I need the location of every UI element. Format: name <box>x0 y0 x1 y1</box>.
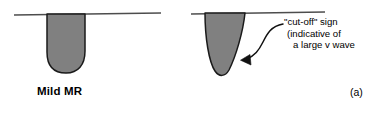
severe-mr-envelope <box>205 13 245 75</box>
figure-panel-a: Mild MR Severe MR "cut-off" sign (indica… <box>0 0 382 115</box>
annotation-line-2: (indicative of <box>284 28 382 40</box>
zero-baseline <box>14 13 161 15</box>
mild-mr-envelope <box>47 14 85 73</box>
mild-mr-waveform-svg <box>0 0 191 115</box>
cut-off-annotation: "cut-off" sign (indicative of a large v … <box>284 16 382 51</box>
curved-arrow-head-icon <box>241 55 252 66</box>
curved-arrow-shaft <box>245 24 283 60</box>
panel-mild-mr: Mild MR <box>0 0 191 115</box>
annotation-line-1: "cut-off" sign <box>284 16 382 28</box>
panel-marker: (a) <box>350 86 363 98</box>
panel-label-mild-mr: Mild MR <box>37 85 82 97</box>
annotation-line-3: a large v wave <box>284 39 382 51</box>
